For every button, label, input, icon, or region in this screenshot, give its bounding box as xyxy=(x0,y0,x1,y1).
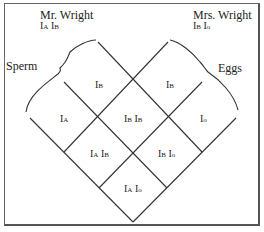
egg-allele: IB xyxy=(166,80,174,90)
eggs-brace xyxy=(170,40,238,110)
offspring-genotype: IA IB xyxy=(90,149,109,159)
sperm-label: Sperm xyxy=(6,60,37,72)
offspring-genotype: IA Io xyxy=(124,184,142,194)
sperm-allele: IB xyxy=(95,80,103,90)
sperm-brace xyxy=(26,40,96,112)
father-genotype: IA IB xyxy=(40,21,59,31)
egg-allele: Io xyxy=(200,114,207,124)
offspring-genotype: IB IB xyxy=(124,114,143,124)
sperm-allele: IA xyxy=(60,114,68,124)
mother-genotype: IB Io xyxy=(193,21,210,31)
offspring-genotype: IB Io xyxy=(158,149,175,159)
eggs-label: Eggs xyxy=(218,62,242,74)
